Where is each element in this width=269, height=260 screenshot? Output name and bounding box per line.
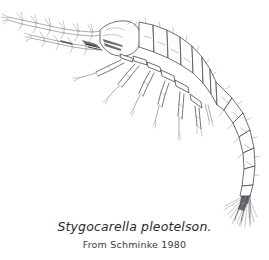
cephalon-icon bbox=[100, 20, 140, 56]
species-caption: Stygocarella pleotelson. bbox=[0, 219, 269, 234]
source-caption: From Schminke 1980 bbox=[0, 239, 269, 250]
mouthparts-icon bbox=[60, 40, 102, 50]
antennule-icon bbox=[1, 12, 104, 42]
figure-container: Stygocarella pleotelson. From Schminke 1… bbox=[0, 0, 269, 260]
pereon-segments-icon bbox=[139, 18, 217, 105]
pleon-segments-icon bbox=[216, 82, 260, 186]
